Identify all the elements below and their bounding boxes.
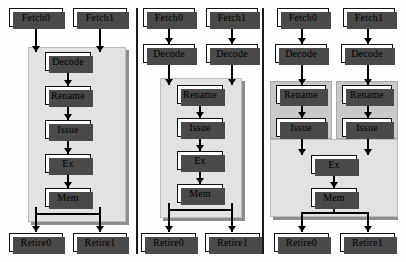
stage-label: Decode — [216, 49, 248, 59]
stage-mem: Mem — [45, 188, 91, 207]
stage-label: Retire0 — [153, 238, 184, 248]
stage-label: Fetch0 — [155, 13, 183, 23]
stage-label: Retire1 — [85, 238, 116, 248]
stage-label: Fetch1 — [355, 13, 383, 23]
stage-retire0: Retire0 — [9, 233, 63, 252]
stage-label: Fetch0 — [22, 13, 50, 23]
stage-retire1: Retire1 — [340, 233, 395, 252]
stage-issue1: Issue — [342, 118, 392, 137]
stage-rename: Rename — [45, 86, 91, 105]
stage-label: Retire1 — [352, 238, 383, 248]
stage-label: Rename — [51, 91, 85, 101]
stage-label: Rename — [284, 90, 318, 100]
stage-fetch1: Fetch1 — [343, 8, 395, 27]
fanout-line-mem — [168, 209, 232, 211]
fanout-line-mem — [35, 213, 100, 215]
stage-fetch1: Fetch1 — [206, 8, 258, 27]
stage-fetch0: Fetch0 — [9, 8, 63, 27]
stage-decode1: Decode — [341, 44, 393, 63]
stage-label: Issue — [57, 125, 79, 135]
stage-label: Fetch1 — [86, 13, 114, 23]
stage-decode0: Decode — [143, 44, 195, 63]
stage-label: Rename — [350, 90, 384, 100]
stage-decode0: Decode — [275, 44, 327, 63]
stage-fetch0: Fetch0 — [143, 8, 195, 27]
stage-label: Ex — [62, 159, 74, 169]
stage-decode1: Decode — [206, 44, 258, 63]
stage-label: Issue — [356, 123, 378, 133]
stage-label: Mem — [57, 193, 79, 203]
stage-retire0: Retire0 — [274, 233, 329, 252]
stage-fetch0: Fetch0 — [277, 8, 329, 27]
stage-label: Decode — [153, 49, 185, 59]
stage-issue0: Issue — [276, 118, 326, 137]
panel-shared-from-rename: Fetch0 Fetch1 Decode Decode Rename — [138, 0, 262, 262]
stage-ex: Ex — [45, 154, 91, 173]
stage-rename1: Rename — [342, 85, 392, 104]
stage-ex: Ex — [177, 151, 223, 170]
diagram-canvas: Fetch0 Fetch1 Decode Rename — [0, 0, 406, 262]
stage-mem: Mem — [177, 184, 223, 203]
stage-ex: Ex — [311, 155, 357, 174]
stage-retire0: Retire0 — [141, 233, 196, 252]
stage-label: Retire0 — [21, 238, 52, 248]
stage-rename: Rename — [177, 85, 223, 104]
stage-label: Fetch1 — [218, 13, 246, 23]
stage-label: Retire0 — [286, 238, 317, 248]
stage-retire1: Retire1 — [73, 233, 127, 252]
stage-retire1: Retire1 — [205, 233, 260, 252]
stage-issue: Issue — [45, 120, 91, 139]
stage-label: Decode — [52, 57, 84, 67]
stage-label: Ex — [194, 156, 206, 166]
stage-label: Fetch0 — [289, 13, 317, 23]
stage-label: Issue — [189, 123, 211, 133]
stage-label: Mem — [189, 189, 211, 199]
stage-label: Ex — [328, 160, 340, 170]
stage-label: Mem — [323, 193, 345, 203]
stage-label: Decode — [285, 49, 317, 59]
stage-label: Retire1 — [217, 238, 248, 248]
stage-decode: Decode — [45, 52, 91, 71]
panel-shared-from-decode: Fetch0 Fetch1 Decode Rename — [0, 0, 136, 262]
stage-label: Decode — [351, 49, 383, 59]
stage-label: Rename — [183, 90, 217, 100]
stage-issue: Issue — [177, 118, 223, 137]
stage-label: Issue — [290, 123, 312, 133]
panel-shared-from-ex: Fetch0 Fetch1 Decode Decode Rename — [264, 0, 406, 262]
stage-rename0: Rename — [276, 85, 326, 104]
stage-fetch1: Fetch1 — [73, 8, 127, 27]
stage-mem: Mem — [311, 188, 357, 207]
